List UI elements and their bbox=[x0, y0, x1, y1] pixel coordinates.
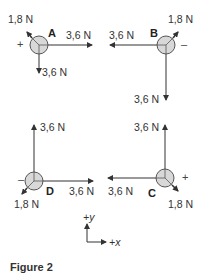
point-label-c: C bbox=[148, 188, 156, 199]
axes-indicator bbox=[87, 224, 106, 242]
sign-c: + bbox=[182, 172, 188, 183]
label-c-y: 3,6 N bbox=[134, 122, 159, 133]
label-b-x: 3,6 N bbox=[109, 30, 134, 41]
label-b-diag: 1,8 N bbox=[168, 14, 193, 25]
force-diagram-graphics bbox=[0, 0, 202, 274]
axis-y-label: +y bbox=[83, 212, 94, 223]
label-c-x: 3,6 N bbox=[108, 186, 133, 197]
figure-caption: Figure 2 bbox=[10, 262, 53, 273]
arrow-b-diag bbox=[173, 32, 178, 38]
arrow-a-diag bbox=[27, 32, 32, 38]
point-d-group bbox=[22, 125, 93, 194]
point-label-d: D bbox=[46, 186, 54, 197]
label-d-y: 3,6 N bbox=[40, 122, 65, 133]
sign-a: + bbox=[17, 39, 23, 50]
label-d-diag: 1,8 N bbox=[14, 199, 39, 210]
point-label-b: B bbox=[150, 28, 158, 39]
point-label-a: A bbox=[48, 28, 56, 39]
label-a-diag: 1,8 N bbox=[8, 14, 33, 25]
arrow-d-diag bbox=[22, 188, 27, 194]
arrow-c-diag bbox=[172, 185, 178, 191]
sign-b: – bbox=[181, 39, 187, 50]
sign-d: – bbox=[18, 174, 24, 185]
force-diagram: 1,8 N A + 3,6 N 3,6 N 1,8 N B – 3,6 N 3,… bbox=[0, 0, 202, 274]
point-b-group bbox=[110, 32, 178, 100]
label-a-x: 3,6 N bbox=[66, 30, 91, 41]
label-d-x: 3,6 N bbox=[69, 186, 94, 197]
label-c-diag: 1,8 N bbox=[168, 199, 193, 210]
label-a-y: 3,6 N bbox=[42, 67, 67, 78]
point-c-group bbox=[108, 125, 178, 191]
label-b-y: 3,6 N bbox=[134, 94, 159, 105]
axis-x-label: +x bbox=[109, 237, 120, 248]
